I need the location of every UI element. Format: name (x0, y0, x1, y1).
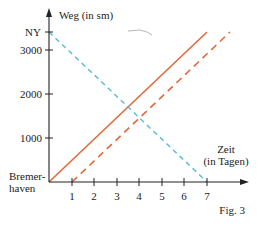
y-axis-title: Weg (in sm) (59, 9, 113, 22)
y-tick-label-2000: 2000 (20, 88, 43, 100)
x-axis-title-1: Zeit (217, 143, 235, 155)
figure-label: Fig. 3 (219, 204, 245, 216)
x-axis-arrow-icon (240, 179, 249, 185)
x-tick-label-7: 7 (204, 190, 210, 202)
y-label-bremerhaven-1: Bremer- (9, 170, 46, 182)
distance-time-chart: Weg (in sm) NY 3000 2000 1000 Bremer- ha… (0, 0, 261, 230)
y-label-ny: NY (25, 26, 41, 38)
y-label-bremerhaven-2: haven (9, 182, 36, 194)
x-tick-label-5: 5 (159, 190, 165, 202)
scan-artifact (128, 30, 152, 35)
y-tick-label-1000: 1000 (20, 132, 43, 144)
y-tick-label-3000: 3000 (20, 44, 43, 56)
x-axis-title-2: (in Tagen) (203, 155, 248, 168)
x-tick-label-3: 3 (114, 190, 120, 202)
x-tick-label-1: 1 (69, 190, 75, 202)
y-axis-arrow-icon (46, 8, 52, 17)
x-tick-label-6: 6 (181, 190, 187, 202)
x-tick-label-2: 2 (91, 190, 97, 202)
x-tick-label-4: 4 (136, 190, 142, 202)
